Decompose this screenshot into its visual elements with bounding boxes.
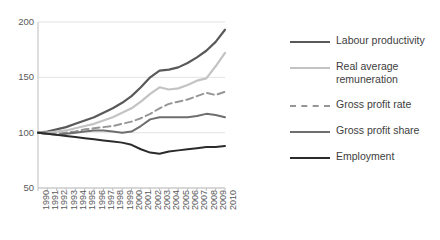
legend-label: Gross profit rate [336,98,411,111]
legend-label: Gross profit share [336,124,419,137]
x-tick-label: 2009 [219,190,228,210]
legend-swatch-icon [290,152,330,164]
x-tick-label: 1995 [88,190,97,210]
legend-item[interactable]: Gross profit rate [290,98,440,112]
x-tick-label: 1992 [60,190,69,210]
legend-label: Real average remuneration [336,60,440,86]
legend-swatch-icon [290,36,330,48]
legend-item[interactable]: Real average remuneration [290,60,440,86]
x-tick-label: 1998 [116,190,125,210]
legend-swatch-icon [290,100,330,112]
series-line-employment [38,133,225,154]
x-tick-label: 2001 [144,190,153,210]
x-axis: 1990199119921993199419951996199719981999… [38,190,228,240]
axis-lines [38,22,225,188]
legend-label: Employment [336,150,394,163]
x-tick-label: 2010 [229,190,238,210]
legend-item[interactable]: Labour productivity [290,34,440,48]
legend-swatch-icon [290,126,330,138]
series-lines [38,30,225,154]
gridlines [38,22,225,188]
legend-item[interactable]: Employment [290,150,440,164]
chart-legend: Labour productivityReal average remunera… [290,34,440,176]
legend-item[interactable]: Gross profit share [290,124,440,138]
line-chart: 50100150200 1990199119921993199419951996… [0,0,440,240]
legend-label: Labour productivity [336,34,425,47]
legend-swatch-icon [290,62,330,74]
